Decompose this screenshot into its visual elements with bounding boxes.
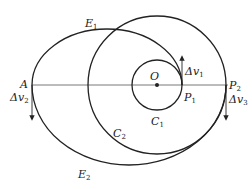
label-e2: E2 (77, 168, 91, 182)
label-o: O (150, 70, 159, 83)
label-c2: C2 (113, 127, 126, 141)
orbit-diagram: O A P1 P2 C1 C2 E1 E2 Δv1 Δv2 Δv3 (0, 0, 252, 189)
label-p1: P1 (183, 91, 196, 105)
label-p2: P2 (228, 79, 241, 93)
label-dv1: Δv1 (184, 65, 204, 79)
orbit-e2 (32, 85, 226, 165)
label-c1: C1 (151, 115, 164, 129)
label-dv3: Δv3 (228, 93, 248, 107)
label-a: A (19, 78, 28, 91)
label-e1: E1 (84, 17, 98, 31)
label-dv2: Δv2 (9, 91, 29, 105)
center-point-o (155, 83, 159, 87)
